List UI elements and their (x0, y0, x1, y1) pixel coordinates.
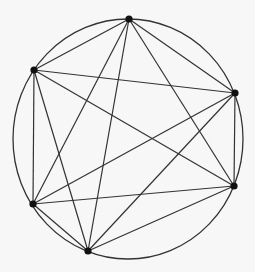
vertex-C (231, 89, 238, 96)
edge-C-E (33, 93, 235, 204)
diagram-canvas (0, 0, 255, 272)
edge-A-C (129, 19, 235, 93)
vertex-D (230, 182, 237, 189)
vertex-E (29, 200, 36, 207)
graph-edges (33, 19, 235, 251)
edge-B-C (34, 70, 235, 93)
edge-E-F (33, 204, 88, 251)
vertex-B (30, 66, 37, 73)
edge-C-D (234, 93, 235, 186)
edge-A-F (88, 19, 129, 251)
circumscribed-circle (13, 19, 243, 259)
vertex-F (84, 247, 91, 254)
complete-graph-diagram (0, 0, 255, 272)
edge-A-B (34, 19, 129, 70)
edge-B-E (33, 70, 34, 204)
vertex-A (125, 15, 132, 22)
edge-C-F (88, 93, 235, 251)
edge-D-F (88, 186, 234, 251)
edge-A-E (33, 19, 129, 204)
